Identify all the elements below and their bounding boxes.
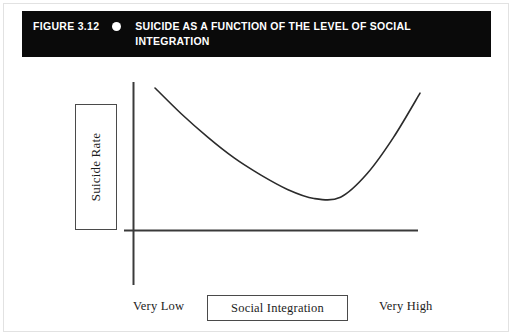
figure-title: SUICIDE AS A FUNCTION OF THE LEVEL OF SO…	[135, 19, 465, 49]
figure-container: FIGURE 3.12 SUICIDE AS A FUNCTION OF THE…	[0, 0, 513, 336]
x-axis-tick-label-very-low: Very Low	[133, 299, 184, 314]
y-axis-label-text: Suicide Rate	[88, 133, 104, 201]
x-axis-label-text: Social Integration	[231, 301, 324, 316]
x-axis-label-box: Social Integration	[207, 295, 348, 321]
x-axis-tick-label-very-high: Very High	[379, 299, 433, 314]
figure-header-bar: FIGURE 3.12 SUICIDE AS A FUNCTION OF THE…	[22, 11, 491, 57]
figure-number-label: FIGURE 3.12	[33, 19, 99, 33]
suicide-rate-curve	[155, 88, 420, 200]
y-axis-label-box: Suicide Rate	[75, 104, 117, 230]
bullet-dot-icon	[112, 22, 121, 31]
